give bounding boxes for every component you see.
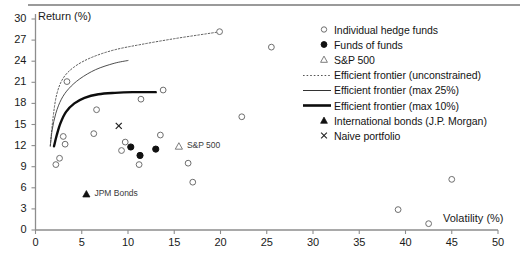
data-point bbox=[53, 162, 59, 168]
series-international-bonds-j-p-morgan bbox=[83, 191, 90, 197]
x-tick-label: 50 bbox=[486, 236, 510, 248]
data-point bbox=[157, 132, 163, 138]
legend-item[interactable]: Efficient frontier (unconstrained) bbox=[300, 68, 516, 83]
annotation-label: S&P 500 bbox=[187, 140, 220, 150]
x-tick-label: 15 bbox=[162, 236, 186, 248]
x-tick-label: 0 bbox=[24, 236, 48, 248]
x-tick-label: 45 bbox=[440, 236, 464, 248]
x-tick-label: 10 bbox=[116, 236, 140, 248]
legend-label: Individual hedge funds bbox=[334, 24, 438, 36]
y-tick-label: 21 bbox=[5, 75, 27, 87]
data-point bbox=[122, 139, 128, 145]
cross-x-icon bbox=[302, 129, 332, 142]
legend-item[interactable]: International bonds (J.P. Morgan) bbox=[300, 113, 516, 128]
y-tick-label: 24 bbox=[5, 54, 27, 66]
data-point bbox=[175, 143, 182, 149]
data-point bbox=[83, 191, 90, 197]
legend-label: Naive portfolio bbox=[334, 130, 400, 142]
data-point bbox=[426, 221, 432, 227]
y-axis-title: Return (%) bbox=[38, 10, 91, 22]
data-point bbox=[153, 146, 159, 152]
data-point bbox=[62, 141, 68, 147]
data-point bbox=[116, 123, 122, 129]
legend-key bbox=[300, 113, 334, 128]
x-tick-label: 30 bbox=[301, 236, 325, 248]
data-point bbox=[57, 155, 63, 161]
y-tick-label: 30 bbox=[5, 12, 27, 24]
data-point bbox=[91, 131, 97, 137]
x-axis-title: Volatility (%) bbox=[443, 212, 504, 224]
legend-label: Efficient frontier (unconstrained) bbox=[334, 69, 481, 81]
x-tick-label: 35 bbox=[347, 236, 371, 248]
data-point bbox=[119, 148, 125, 154]
open-circle-icon bbox=[302, 23, 332, 36]
legend-key bbox=[300, 128, 334, 143]
legend-label: S&P 500 bbox=[334, 54, 375, 66]
data-point bbox=[64, 79, 70, 85]
data-point bbox=[185, 160, 191, 166]
data-point bbox=[190, 179, 196, 185]
dotted-line-icon bbox=[302, 69, 332, 82]
legend-label: Efficient frontier (max 25%) bbox=[334, 84, 459, 96]
y-tick-label: 9 bbox=[5, 160, 27, 172]
data-point bbox=[395, 207, 401, 213]
data-point bbox=[137, 152, 143, 158]
y-tick-label: 0 bbox=[5, 223, 27, 235]
data-point bbox=[60, 134, 66, 140]
curve-dotted bbox=[50, 32, 220, 146]
y-tick-label: 12 bbox=[5, 139, 27, 151]
filled-triangle-icon bbox=[302, 114, 332, 127]
legend-label: Efficient frontier (max 10%) bbox=[334, 100, 459, 112]
filled-circle-icon bbox=[302, 38, 332, 51]
legend-label: International bonds (J.P. Morgan) bbox=[334, 115, 487, 127]
legend-key bbox=[300, 22, 334, 37]
x-tick-label: 20 bbox=[209, 236, 233, 248]
legend-key bbox=[300, 52, 334, 67]
legend-key bbox=[300, 98, 334, 113]
x-tick-label: 40 bbox=[394, 236, 418, 248]
data-point bbox=[268, 44, 274, 50]
x-tick-label: 5 bbox=[70, 236, 94, 248]
y-tick-label: 6 bbox=[5, 181, 27, 193]
open-triangle-icon bbox=[302, 53, 332, 66]
efficient-frontier-curves bbox=[50, 32, 220, 147]
legend-key bbox=[300, 37, 334, 52]
series-funds-of-funds bbox=[128, 144, 159, 159]
legend-key bbox=[300, 68, 334, 83]
series-naive-portfolio bbox=[116, 123, 122, 129]
data-point bbox=[138, 96, 144, 102]
annotation-label: JPM Bonds bbox=[94, 188, 137, 198]
legend-item[interactable]: S&P 500 bbox=[300, 52, 516, 67]
y-tick-label: 18 bbox=[5, 96, 27, 108]
y-tick-label: 3 bbox=[5, 202, 27, 214]
series-s-p-500 bbox=[175, 143, 182, 149]
y-tick-label: 27 bbox=[5, 33, 27, 45]
data-point bbox=[94, 107, 100, 113]
data-point bbox=[160, 87, 166, 93]
legend-item[interactable]: Individual hedge funds bbox=[300, 22, 516, 37]
x-tick-label: 25 bbox=[255, 236, 279, 248]
data-point bbox=[217, 29, 223, 35]
data-point bbox=[239, 114, 245, 120]
data-point bbox=[128, 144, 134, 150]
thin-line-icon bbox=[302, 84, 332, 97]
legend-item[interactable]: Funds of funds bbox=[300, 37, 516, 52]
chart-figure: Return (%) Volatility (%) 30272421181512… bbox=[0, 0, 520, 264]
data-point bbox=[136, 162, 142, 168]
chart-legend: Individual hedge fundsFunds of fundsS&P … bbox=[300, 22, 516, 144]
legend-item[interactable]: Naive portfolio bbox=[300, 128, 516, 143]
legend-label: Funds of funds bbox=[334, 39, 403, 51]
legend-key bbox=[300, 83, 334, 98]
data-point bbox=[449, 176, 455, 182]
thick-line-icon bbox=[302, 99, 332, 112]
legend-item[interactable]: Efficient frontier (max 10%) bbox=[300, 98, 516, 113]
y-tick-label: 15 bbox=[5, 118, 27, 130]
legend-item[interactable]: Efficient frontier (max 25%) bbox=[300, 83, 516, 98]
